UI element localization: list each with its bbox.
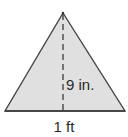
triangle-figure: 9 in. 1 ft: [0, 0, 128, 137]
base-label: 1 ft: [0, 119, 128, 134]
triangle-diagram: [0, 0, 128, 137]
height-label: 9 in.: [66, 77, 94, 92]
triangle-shape: [5, 13, 125, 111]
apex-point: [62, 12, 64, 14]
